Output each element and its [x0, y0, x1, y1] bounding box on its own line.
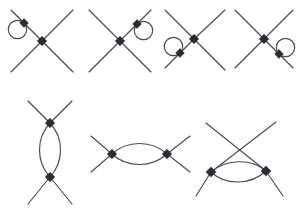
leg-upper-right — [264, 10, 293, 39]
leg-right-lower — [167, 154, 190, 172]
leg-top-left — [28, 101, 50, 123]
leg-upper-left — [165, 10, 194, 39]
leg-right-lower — [266, 171, 283, 196]
diagram-6-horizontal-bubble — [91, 136, 190, 172]
leg-crossing-up-left — [206, 123, 266, 171]
diagram-1-tadpole-upper-left-leg — [8, 10, 73, 72]
diagram-7-crossed-horizontal-bubble — [196, 122, 283, 196]
leg-bottom-left — [28, 177, 50, 204]
bubble-arc-top — [112, 144, 167, 155]
leg-right-upper — [167, 136, 190, 154]
leg-upper-left — [235, 10, 264, 39]
leg-crossing-up-right — [211, 122, 276, 172]
leg-lower-left — [11, 41, 42, 72]
diagram-3-tadpole-lower-left-leg — [164, 10, 225, 70]
diagram-canvas — [0, 0, 303, 214]
bubble-arc-top — [211, 162, 266, 172]
feynman-diagram-figure — [0, 0, 303, 214]
leg-lower-right — [194, 39, 225, 70]
leg-top-right — [50, 101, 72, 123]
leg-upper-right — [42, 10, 73, 41]
leg-lower-left — [235, 39, 264, 68]
leg-upper-left — [89, 10, 120, 41]
leg-left-lower — [196, 172, 211, 196]
leg-left-lower — [91, 154, 112, 172]
diagram-5-vertical-bubble — [28, 101, 72, 204]
bubble-arc-bottom — [112, 154, 167, 165]
diagram-4-tadpole-lower-right-leg — [235, 10, 295, 68]
leg-lower-right — [42, 41, 73, 72]
leg-upper-right — [194, 10, 225, 39]
leg-left-upper — [91, 136, 112, 154]
leg-upper-left — [11, 10, 42, 41]
bubble-arc-left — [40, 123, 51, 177]
bubble-arc-right — [50, 123, 61, 177]
bubble-arc-bottom — [211, 171, 266, 182]
leg-lower-right — [120, 41, 151, 72]
diagram-2-tadpole-upper-right-leg — [89, 10, 153, 72]
leg-bottom-right — [50, 177, 72, 204]
leg-lower-left — [89, 41, 120, 72]
